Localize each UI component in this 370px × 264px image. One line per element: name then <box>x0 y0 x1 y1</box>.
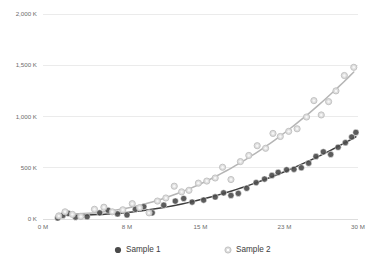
data-point[interactable] <box>228 192 234 198</box>
data-point[interactable] <box>275 169 281 175</box>
trend-line-1 <box>58 137 356 215</box>
data-point-hole <box>111 211 113 213</box>
data-point-hole <box>188 189 190 191</box>
data-point-hole <box>180 191 182 193</box>
data-point-hole <box>138 207 140 209</box>
data-point-hole <box>173 185 175 187</box>
data-point-hole <box>165 197 167 199</box>
data-point[interactable] <box>284 167 290 173</box>
data-point-hole <box>288 130 290 132</box>
data-point-hole <box>131 202 133 204</box>
data-point[interactable] <box>269 172 275 178</box>
trend-line-2 <box>59 72 354 214</box>
data-point[interactable] <box>298 165 304 171</box>
data-point-hole <box>122 209 124 211</box>
data-point[interactable] <box>342 140 348 146</box>
data-point-hole <box>156 200 158 202</box>
x-axis-tick-label: 8 M <box>122 223 132 230</box>
data-point-hole <box>206 180 208 182</box>
data-point-hole <box>80 215 82 217</box>
data-point[interactable] <box>235 190 241 196</box>
data-point[interactable] <box>221 190 227 196</box>
data-point-hole <box>93 208 95 210</box>
data-point-hole <box>103 206 105 208</box>
data-point-hole <box>239 160 241 162</box>
data-point[interactable] <box>291 166 297 172</box>
y-axis-tick-label: 500 K <box>21 164 38 171</box>
data-point[interactable] <box>328 151 334 157</box>
data-point[interactable] <box>253 180 259 186</box>
data-point-hole <box>230 178 232 180</box>
chart-legend[interactable]: Sample 1Sample 2 <box>115 245 271 254</box>
data-point-hole <box>272 132 274 134</box>
data-point[interactable] <box>212 194 218 200</box>
chart-container: 0 K500 K1,000 K1,500 K2,000 K 0 M8 M15 M… <box>0 0 370 264</box>
data-point[interactable] <box>124 212 130 218</box>
gridlines <box>43 14 358 219</box>
data-point-hole <box>279 135 281 137</box>
scatter-chart: 0 K500 K1,000 K1,500 K2,000 K 0 M8 M15 M… <box>0 0 370 264</box>
data-point-hole <box>305 116 307 118</box>
data-point-hole <box>148 212 150 214</box>
data-point-hole <box>248 154 250 156</box>
legend-label-2[interactable]: Sample 2 <box>236 245 271 254</box>
y-axis-tick-label: 1,500 K <box>16 61 38 68</box>
data-point-hole <box>264 147 266 149</box>
data-point[interactable] <box>84 214 90 220</box>
data-point-hole <box>327 100 329 102</box>
data-point[interactable] <box>320 149 326 155</box>
data-point[interactable] <box>189 199 195 205</box>
data-point[interactable] <box>306 160 312 166</box>
legend-marker-1[interactable] <box>115 247 121 253</box>
data-point-hole <box>71 213 73 215</box>
x-axis-tick-labels: 0 M8 M15 M23 M30 M <box>38 223 365 230</box>
x-axis-tick-label: 23 M <box>278 223 292 230</box>
x-axis-tick-label: 15 M <box>194 223 208 230</box>
y-axis-tick-labels: 0 K500 K1,000 K1,500 K2,000 K <box>16 10 38 222</box>
x-axis-tick-label: 30 M <box>351 223 365 230</box>
data-point-hole <box>221 166 223 168</box>
data-point-hole <box>313 99 315 101</box>
legend-marker-hole <box>227 249 229 251</box>
data-point[interactable] <box>201 197 207 203</box>
legend-label-1[interactable]: Sample 1 <box>126 245 161 254</box>
data-point[interactable] <box>172 198 178 204</box>
data-point-hole <box>197 182 199 184</box>
data-point[interactable] <box>261 176 267 182</box>
data-point-hole <box>214 177 216 179</box>
data-point-hole <box>335 90 337 92</box>
y-axis-tick-label: 0 K <box>28 215 38 222</box>
data-point[interactable] <box>161 202 167 208</box>
data-point-hole <box>256 145 258 147</box>
data-point-hole <box>296 128 298 130</box>
data-point-hole <box>343 74 345 76</box>
data-point-hole <box>320 114 322 116</box>
data-point[interactable] <box>335 144 341 150</box>
data-point[interactable] <box>181 195 187 201</box>
x-axis-tick-label: 0 M <box>38 223 48 230</box>
data-point-hole <box>353 66 355 68</box>
data-point[interactable] <box>353 129 359 135</box>
data-point[interactable] <box>244 185 250 191</box>
y-axis-tick-label: 2,000 K <box>16 10 38 17</box>
trend-lines <box>58 72 356 215</box>
y-axis-tick-label: 1,000 K <box>16 113 38 120</box>
data-point-hole <box>58 215 60 217</box>
data-point-hole <box>64 211 66 213</box>
data-point[interactable] <box>313 153 319 159</box>
